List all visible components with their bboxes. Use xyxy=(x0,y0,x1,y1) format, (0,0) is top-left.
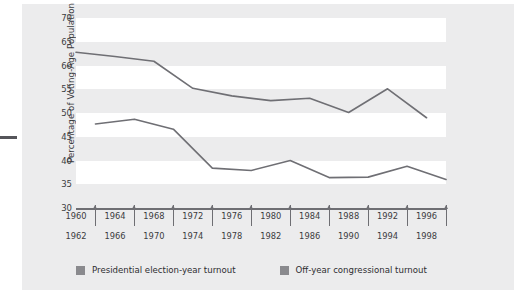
legend-item: Presidential election-year turnout xyxy=(76,265,236,275)
y-tick-label: 40 xyxy=(46,157,72,166)
x-tick-label: 1982 xyxy=(250,231,292,242)
y-axis-tick-labels: 706560555045403530 xyxy=(44,18,72,208)
x-tick-label: 1988 xyxy=(328,211,370,222)
x-tick-label: 1978 xyxy=(211,231,253,242)
x-tick-label: 1972 xyxy=(172,211,214,222)
x-tick-label: 1962 xyxy=(55,231,97,242)
x-tick-label: 1968 xyxy=(133,211,175,222)
x-tick-label: 1964 xyxy=(94,211,136,222)
x-tick-group: 19801982 xyxy=(250,211,292,242)
legend-swatch xyxy=(280,266,289,275)
y-tick-label: 35 xyxy=(46,180,72,189)
x-tick-group: 19641966 xyxy=(94,211,136,242)
x-tick-label: 1980 xyxy=(250,211,292,222)
x-tick-label: 1976 xyxy=(211,211,253,222)
legend-swatch xyxy=(76,266,85,275)
y-tick-label: 55 xyxy=(46,85,72,94)
x-tick-group: 19961998 xyxy=(406,211,448,242)
y-tick-label: 65 xyxy=(46,38,72,47)
y-tick-label: 45 xyxy=(46,133,72,142)
y-tick-label: 60 xyxy=(46,62,72,71)
series-line xyxy=(76,52,427,118)
x-tick-label: 1960 xyxy=(55,211,97,222)
x-axis-tick-labels: 1960196219641966196819701972197419761978… xyxy=(66,211,458,247)
x-tick-label: 1974 xyxy=(172,231,214,242)
x-tick-group: 19921994 xyxy=(367,211,409,242)
x-tick-label: 1970 xyxy=(133,231,175,242)
page-edge-rule xyxy=(0,136,17,139)
plot-area xyxy=(76,18,446,208)
x-tick-group: 19881990 xyxy=(328,211,370,242)
x-tick-label: 1984 xyxy=(289,211,331,222)
x-tick-label: 1992 xyxy=(367,211,409,222)
x-tick-label: 1998 xyxy=(406,231,448,242)
x-axis-tick xyxy=(446,205,447,226)
y-tick-label: 50 xyxy=(46,109,72,118)
series-lines xyxy=(76,18,446,208)
series-line xyxy=(95,119,446,179)
legend-item: Off-year congressional turnout xyxy=(280,265,427,275)
legend-label: Off-year congressional turnout xyxy=(296,265,427,275)
y-tick-label: 70 xyxy=(46,14,72,23)
x-tick-group: 19761978 xyxy=(211,211,253,242)
x-tick-label: 1996 xyxy=(406,211,448,222)
legend-label: Presidential election-year turnout xyxy=(92,265,236,275)
chart-legend: Presidential election-year turnoutOff-ye… xyxy=(76,262,427,278)
x-tick-label: 1986 xyxy=(289,231,331,242)
x-tick-group: 19681970 xyxy=(133,211,175,242)
x-tick-group: 19841986 xyxy=(289,211,331,242)
x-tick-label: 1966 xyxy=(94,231,136,242)
x-tick-label: 1990 xyxy=(328,231,370,242)
chart-figure: Percentage of Voting-Age Population 7065… xyxy=(0,0,523,307)
x-tick-group: 19601962 xyxy=(55,211,97,242)
x-tick-group: 19721974 xyxy=(172,211,214,242)
x-tick-label: 1994 xyxy=(367,231,409,242)
